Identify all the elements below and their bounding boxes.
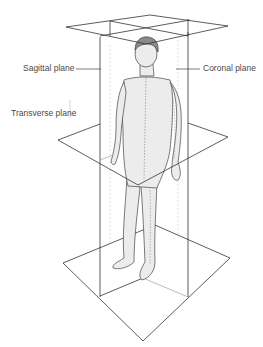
diagram-canvas [0, 0, 263, 347]
sagittal-plane-label: Sagittal plane [23, 64, 75, 73]
transverse-plane-label: Transverse plane [11, 109, 76, 118]
coronal-plane-label: Coronal plane [203, 64, 256, 73]
